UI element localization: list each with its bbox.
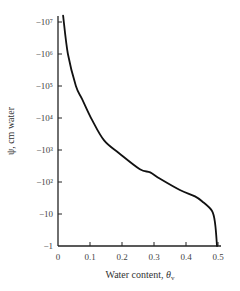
water-retention-chart: −1−10−10²−10³−10⁴−10⁵−10⁶−10⁷ 00.10.20.3… xyxy=(0,0,240,291)
x-tick-label: 0.1 xyxy=(84,252,95,262)
x-ticks: 00.10.20.30.40.5 xyxy=(56,242,224,262)
x-axis-title: Water content, θv xyxy=(106,269,175,282)
axes xyxy=(58,16,221,246)
retention-curve xyxy=(63,16,217,246)
x-tick-label: 0.3 xyxy=(148,252,160,262)
y-tick-label: −10⁷ xyxy=(36,17,53,27)
x-axis-title-sub: v xyxy=(171,274,175,282)
y-tick-label: −10³ xyxy=(36,145,53,155)
y-tick-label: −10 xyxy=(39,209,54,219)
y-axis-title: ψ, cm water xyxy=(5,106,16,155)
x-tick-label: 0.2 xyxy=(116,252,127,262)
x-tick-label: 0.4 xyxy=(180,252,192,262)
y-tick-label: −10⁴ xyxy=(36,113,53,123)
x-tick-label: 0.5 xyxy=(212,252,224,262)
y-tick-label: −1 xyxy=(43,241,53,251)
x-axis-title-main: Water content, xyxy=(106,269,167,280)
y-tick-label: −10⁵ xyxy=(36,81,53,91)
x-tick-label: 0 xyxy=(56,252,61,262)
y-tick-label: −10² xyxy=(36,177,53,187)
y-tick-label: −10⁶ xyxy=(36,49,53,59)
